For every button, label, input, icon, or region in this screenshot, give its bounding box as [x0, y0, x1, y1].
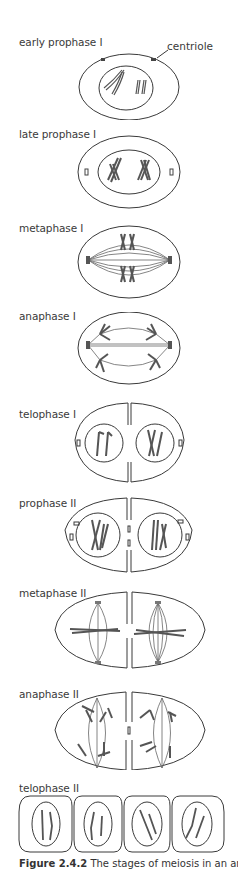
- diagram-metaphase-2: [0, 590, 238, 670]
- diagram-anaphase-1: [0, 312, 238, 402]
- diagram-early-prophase-1: [0, 40, 238, 120]
- diagram-anaphase-2: [0, 690, 238, 770]
- diagram-telophase-2: [0, 794, 238, 854]
- diagram-metaphase-1: [0, 225, 238, 310]
- figure-caption-label: Figure 2.4.2: [19, 858, 87, 869]
- diagram-late-prophase-1: [0, 130, 238, 210]
- figure-caption: Figure 2.4.2 The stages of meiosis in an…: [19, 858, 238, 869]
- figure-caption-text: The stages of meiosis in an animal c: [90, 858, 238, 869]
- stage-label-telophase-2: telophase II: [19, 782, 79, 794]
- diagram-prophase-2: [0, 495, 238, 575]
- diagram-telophase-1: [0, 400, 238, 485]
